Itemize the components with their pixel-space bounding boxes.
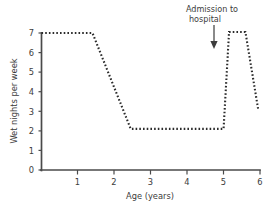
x-tick-label-1: 1 (75, 177, 80, 187)
x-tick-label-5: 5 (221, 177, 226, 187)
y-tick-label-4: 4 (29, 87, 34, 97)
x-axis-title: Age (years) (126, 191, 174, 201)
annotation-arrow (210, 25, 217, 49)
y-tick-label-3: 3 (29, 107, 34, 117)
y-tick-label-0: 0 (29, 165, 34, 175)
data-series-line (42, 32, 259, 129)
annotation-line-2: hospital (189, 14, 221, 24)
y-tick-label-5: 5 (29, 67, 34, 77)
x-tick-label-3: 3 (148, 177, 153, 187)
x-tick-label-4: 4 (184, 177, 189, 187)
annotation-line-1: Admission to (186, 4, 238, 14)
chart-figure: 7 6 5 4 3 2 1 0 1 2 3 4 5 6 Age (years) … (0, 0, 274, 210)
y-tick-label-2: 2 (29, 126, 34, 136)
chart-canvas: 7 6 5 4 3 2 1 0 1 2 3 4 5 6 Age (years) … (0, 0, 274, 210)
y-tick-label-7: 7 (29, 28, 34, 38)
y-tick-label-6: 6 (29, 48, 34, 58)
y-tick-label-1: 1 (29, 146, 34, 156)
x-tick-label-6: 6 (257, 177, 262, 187)
y-axis-title: Wet nights per week (9, 58, 19, 143)
x-tick-label-2: 2 (111, 177, 116, 187)
